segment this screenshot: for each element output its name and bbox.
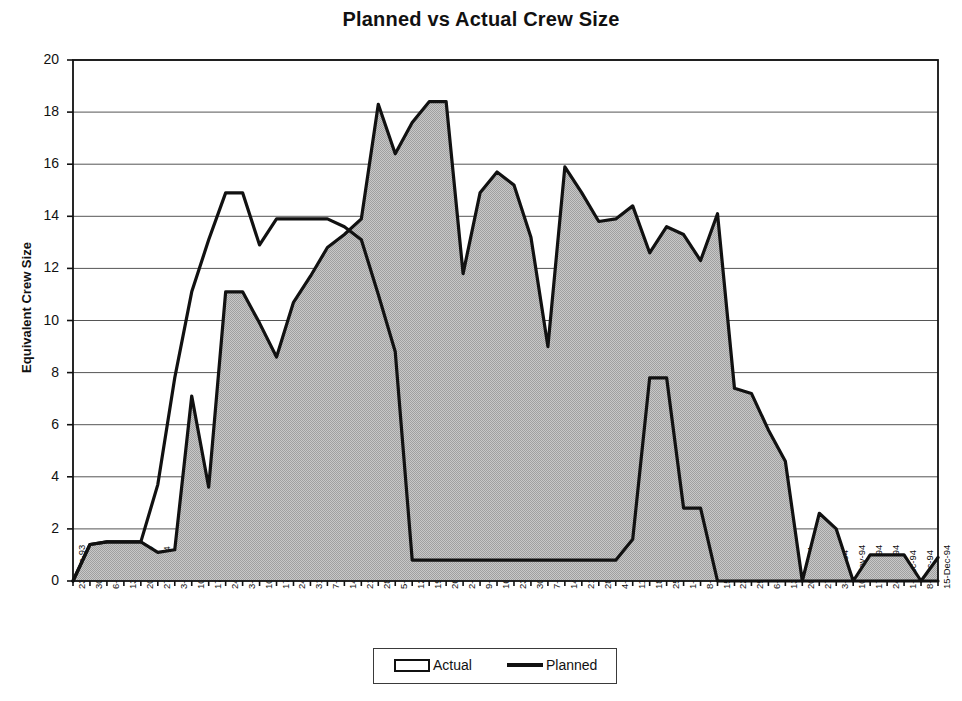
legend-label-planned: Planned [546, 657, 597, 673]
area-swatch-icon [394, 659, 430, 672]
line-swatch-icon [507, 663, 543, 667]
legend-item-planned[interactable]: Planned [507, 657, 597, 673]
plot-area [0, 0, 962, 701]
legend-label-actual: Actual [433, 657, 472, 673]
legend-item-actual[interactable]: Actual [394, 657, 472, 673]
chart-legend: Actual Planned [373, 648, 617, 684]
chart-container: Planned vs Actual Crew Size Equivalent C… [0, 0, 962, 701]
series-actual-area [73, 102, 938, 581]
